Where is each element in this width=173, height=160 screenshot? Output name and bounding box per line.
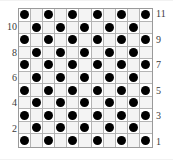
- filled-circle-icon: [141, 86, 150, 95]
- filled-circle-icon: [129, 123, 138, 132]
- grid-cell: [79, 22, 91, 35]
- grid-cell: [55, 97, 67, 110]
- filled-circle-icon: [80, 123, 89, 132]
- filled-circle-icon: [80, 98, 89, 107]
- filled-circle-icon: [32, 123, 41, 132]
- grid-cell: [92, 72, 104, 85]
- grid-cell: [19, 109, 31, 122]
- grid-cell: [55, 59, 67, 72]
- grid-cell: [79, 34, 91, 47]
- grid-cell: [116, 9, 128, 22]
- filled-circle-icon: [117, 136, 126, 145]
- filled-circle-icon: [80, 48, 89, 57]
- grid-cell: [104, 122, 116, 135]
- grid-cell: [31, 84, 43, 97]
- filled-circle-icon: [32, 73, 41, 82]
- grid-cell: [104, 22, 116, 35]
- grid-cell: [67, 72, 79, 85]
- grid-cell: [92, 134, 104, 147]
- filled-circle-icon: [44, 111, 53, 120]
- filled-circle-icon: [93, 35, 102, 44]
- grid-cell: [92, 122, 104, 135]
- left-axis-tick-2: 2: [1, 124, 17, 134]
- grid-cell: [67, 59, 79, 72]
- grid-cell: [67, 22, 79, 35]
- filled-circle-icon: [68, 111, 77, 120]
- grid-cell: [67, 34, 79, 47]
- grid-cell: [92, 47, 104, 60]
- grid-cell: [31, 134, 43, 147]
- grid-cell: [116, 72, 128, 85]
- filled-circle-icon: [129, 98, 138, 107]
- grid-cell: [104, 9, 116, 22]
- grid-cell: [104, 109, 116, 122]
- grid-cell: [19, 22, 31, 35]
- grid-cell: [31, 9, 43, 22]
- filled-circle-icon: [117, 111, 126, 120]
- grid-cell: [92, 9, 104, 22]
- grid-cell: [43, 84, 55, 97]
- grid-cell: [104, 72, 116, 85]
- filled-circle-icon: [117, 86, 126, 95]
- grid-cell: [116, 22, 128, 35]
- grid-cell: [43, 97, 55, 110]
- grid-cell: [128, 122, 140, 135]
- filled-circle-icon: [105, 23, 114, 32]
- grid-cell: [55, 47, 67, 60]
- grid-cell: [128, 97, 140, 110]
- grid-cell: [19, 9, 31, 22]
- grid-cell: [19, 34, 31, 47]
- filled-circle-icon: [56, 23, 65, 32]
- grid-cell: [31, 34, 43, 47]
- grid-cell: [67, 97, 79, 110]
- grid-cell: [128, 134, 140, 147]
- left-axis-tick-6: 6: [1, 73, 17, 83]
- grid-cell: [31, 72, 43, 85]
- grid-cell: [31, 47, 43, 60]
- grid-cell: [140, 97, 152, 110]
- grid-cell: [79, 59, 91, 72]
- grid-cell: [116, 47, 128, 60]
- grid-cell: [67, 84, 79, 97]
- grid-cell: [55, 22, 67, 35]
- grid-cell: [140, 72, 152, 85]
- grid-cell: [92, 34, 104, 47]
- filled-circle-icon: [44, 86, 53, 95]
- grid-cell: [92, 97, 104, 110]
- grid-cell: [92, 59, 104, 72]
- grid-cell: [43, 122, 55, 135]
- grid-cell: [79, 47, 91, 60]
- grid-cell: [79, 97, 91, 110]
- filled-circle-icon: [105, 48, 114, 57]
- grid-cell: [55, 34, 67, 47]
- filled-circle-icon: [68, 60, 77, 69]
- grid-cell: [43, 72, 55, 85]
- filled-circle-icon: [93, 136, 102, 145]
- grid-cell: [55, 84, 67, 97]
- left-axis-tick-8: 8: [1, 48, 17, 58]
- grid-cell: [116, 34, 128, 47]
- grid-cell: [116, 97, 128, 110]
- grid-cell: [67, 47, 79, 60]
- filled-circle-icon: [56, 98, 65, 107]
- grid-cell: [140, 22, 152, 35]
- right-axis-tick-9: 9: [156, 35, 172, 45]
- left-axis-tick-4: 4: [1, 98, 17, 108]
- grid-cell: [31, 122, 43, 135]
- filled-circle-icon: [20, 111, 29, 120]
- grid-cell: [104, 34, 116, 47]
- grid-cell: [140, 109, 152, 122]
- grid-cell: [128, 59, 140, 72]
- right-axis-tick-5: 5: [156, 86, 172, 96]
- dot-grid: [19, 9, 152, 147]
- filled-circle-icon: [20, 10, 29, 19]
- grid-cell: [104, 84, 116, 97]
- grid-cell: [31, 22, 43, 35]
- filled-circle-icon: [68, 35, 77, 44]
- filled-circle-icon: [20, 86, 29, 95]
- grid-cell: [116, 134, 128, 147]
- grid-cell: [43, 59, 55, 72]
- grid-cell: [19, 97, 31, 110]
- left-axis-tick-10: 10: [1, 22, 17, 32]
- grid-cell: [140, 59, 152, 72]
